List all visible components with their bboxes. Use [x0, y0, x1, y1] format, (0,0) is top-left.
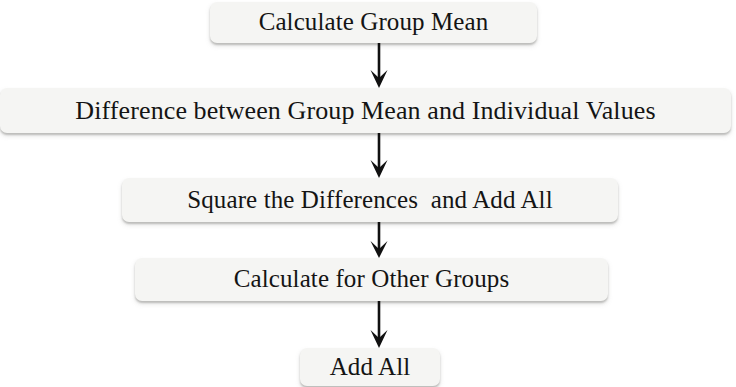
flow-node-label: Calculate for Other Groups — [234, 266, 509, 292]
down-arrow-icon — [368, 222, 390, 259]
down-arrow-icon — [368, 43, 390, 89]
down-arrow-icon — [368, 301, 390, 349]
flow-node-label: Difference between Group Mean and Indivi… — [75, 97, 655, 124]
flow-node-label: Add All — [330, 354, 411, 380]
flow-node-label: Square the Differences and Add All — [187, 187, 552, 213]
flow-node-calculate-group-mean: Calculate Group Mean — [210, 2, 537, 43]
flowchart-diagram: Calculate Group Mean Difference between … — [0, 0, 736, 387]
flow-node-square-differences-and-add-all: Square the Differences and Add All — [122, 178, 618, 222]
flow-node-add-all: Add All — [300, 348, 440, 386]
flow-node-label: Calculate Group Mean — [259, 9, 489, 35]
flow-node-calculate-for-other-groups: Calculate for Other Groups — [135, 258, 608, 301]
flow-node-difference-group-mean-individual-values: Difference between Group Mean and Indivi… — [0, 88, 731, 133]
down-arrow-icon — [368, 133, 390, 179]
